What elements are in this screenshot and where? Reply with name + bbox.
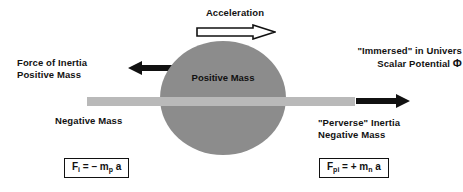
formula-right-mass-subscript: n bbox=[368, 166, 372, 173]
force-of-inertia-line1: Force of Inertia bbox=[17, 57, 87, 69]
formula-right-body: = + m bbox=[339, 161, 368, 172]
immersed-universe-line1: "Immersed" in Univers bbox=[275, 45, 462, 57]
phi-symbol-icon: Φ bbox=[453, 57, 462, 69]
negative-mass-rod bbox=[87, 97, 355, 106]
inertia-diagram: Acceleration Force of Inertia Positive M… bbox=[0, 0, 463, 192]
formula-box-positive-mass: Fi = – mp a bbox=[64, 158, 129, 178]
perverse-inertia-arrow-icon bbox=[356, 94, 410, 108]
formula-right-subscript: pi bbox=[333, 166, 339, 173]
formula-left-subscript: i bbox=[78, 166, 80, 173]
scalar-potential-text: Scalar Potential bbox=[377, 58, 450, 69]
formula-left-mass-subscript: p bbox=[109, 166, 113, 173]
acceleration-arrow-icon bbox=[196, 24, 276, 40]
positive-mass-label: Positive Mass bbox=[160, 72, 286, 83]
scalar-potential-line2: Scalar Potential Φ bbox=[275, 57, 462, 70]
perverse-inertia-line2: Negative Mass bbox=[318, 129, 385, 141]
formula-right-tail: a bbox=[373, 161, 381, 172]
acceleration-label: Acceleration bbox=[180, 7, 290, 19]
force-of-inertia-line2: Positive Mass bbox=[17, 69, 81, 81]
perverse-inertia-line1: "Perverse" Inertia bbox=[318, 117, 400, 129]
formula-left-tail: a bbox=[113, 161, 121, 172]
formula-box-negative-mass: Fpi = + mn a bbox=[319, 158, 389, 178]
negative-mass-label: Negative Mass bbox=[55, 115, 122, 127]
formula-left-body: = – m bbox=[80, 161, 109, 172]
